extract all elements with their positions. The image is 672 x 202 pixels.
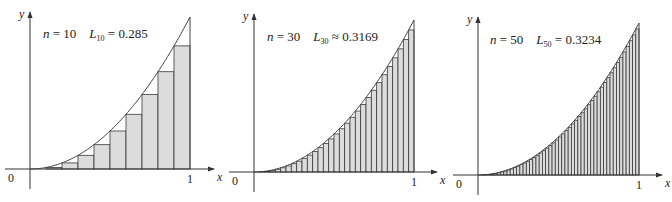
riemann-rectangle bbox=[507, 170, 510, 175]
riemann-rectangle bbox=[604, 83, 607, 175]
sum-annotation: n = 10 L10 = 0.285 bbox=[43, 26, 148, 43]
riemann-rectangle bbox=[307, 155, 312, 172]
riemann-rectangle bbox=[552, 143, 555, 175]
riemann-rectangle bbox=[382, 75, 387, 172]
riemann-rectangle bbox=[539, 153, 542, 175]
riemann-rectangle bbox=[584, 109, 587, 175]
riemann-rectangle bbox=[409, 30, 414, 172]
riemann-rectangle bbox=[387, 66, 392, 172]
riemann-rectangle bbox=[536, 155, 539, 175]
riemann-rectangle bbox=[546, 148, 549, 175]
riemann-rectangle bbox=[562, 134, 565, 175]
riemann-rectangle bbox=[610, 73, 613, 175]
riemann-rectangle bbox=[281, 168, 286, 172]
y-axis-label: y bbox=[18, 7, 25, 21]
x-tick-1-label: 1 bbox=[187, 172, 193, 186]
riemann-rectangle bbox=[600, 87, 603, 175]
riemann-rectangle bbox=[568, 127, 571, 175]
riemann-rectangle bbox=[345, 123, 350, 172]
riemann-rectangle bbox=[607, 78, 610, 175]
riemann-rectangle bbox=[530, 159, 533, 175]
origin-label: 0 bbox=[456, 177, 462, 191]
riemann-rectangle bbox=[398, 49, 403, 172]
riemann-rectangle bbox=[555, 140, 558, 175]
riemann-rectangle bbox=[575, 120, 578, 175]
riemann-rectangle bbox=[549, 146, 552, 175]
riemann-rectangle bbox=[355, 111, 360, 172]
origin-label: 0 bbox=[232, 174, 238, 188]
panel-n50: xy01n = 50 L50 = 0.3234 bbox=[453, 12, 671, 195]
riemann-rectangle bbox=[297, 161, 302, 172]
riemann-rectangle bbox=[371, 90, 376, 172]
panel-n30: xy01n = 30 L30 ≈ 0.3169 bbox=[229, 9, 446, 192]
riemann-rectangle bbox=[366, 98, 371, 172]
riemann-rectangle bbox=[110, 131, 126, 169]
x-axis-label: x bbox=[664, 176, 671, 190]
y-axis-label: y bbox=[466, 12, 473, 26]
riemann-rectangle bbox=[94, 145, 110, 169]
x-tick-1-label: 1 bbox=[636, 178, 642, 192]
riemann-rectangle bbox=[403, 40, 408, 172]
riemann-rectangle bbox=[339, 129, 344, 172]
sum-annotation: n = 30 L30 ≈ 0.3169 bbox=[267, 29, 378, 46]
riemann-rectangle bbox=[517, 166, 520, 175]
riemann-rectangle bbox=[504, 171, 507, 175]
riemann-rectangle bbox=[361, 104, 366, 172]
y-axis-label: y bbox=[242, 9, 249, 23]
riemann-rectangle bbox=[510, 169, 513, 175]
riemann-rectangle bbox=[62, 163, 78, 169]
sum-annotation: n = 50 L50 = 0.3234 bbox=[490, 32, 602, 49]
riemann-rectangle bbox=[520, 165, 523, 175]
riemann-rectangle bbox=[559, 137, 562, 175]
riemann-rectangle bbox=[126, 114, 142, 169]
riemann-rectangle bbox=[142, 95, 158, 169]
riemann-rectangle bbox=[571, 124, 574, 175]
rectangles bbox=[259, 30, 414, 172]
riemann-rectangle bbox=[616, 63, 619, 175]
riemann-rectangle bbox=[286, 166, 291, 172]
riemann-rectangle bbox=[78, 155, 94, 169]
riemann-rectangle bbox=[620, 57, 623, 175]
rectangles bbox=[481, 29, 639, 175]
riemann-rectangle bbox=[578, 117, 581, 175]
panel-n10: xy01n = 10 L10 = 0.285 bbox=[5, 7, 223, 189]
riemann-rectangle bbox=[158, 72, 174, 169]
riemann-rectangle bbox=[291, 164, 296, 172]
x-axis-label: x bbox=[439, 173, 446, 187]
riemann-rectangle bbox=[318, 148, 323, 172]
riemann-rectangle bbox=[594, 96, 597, 175]
riemann-rectangle bbox=[523, 163, 526, 175]
riemann-rectangle bbox=[591, 101, 594, 175]
riemann-rectangle bbox=[626, 46, 629, 175]
riemann-rectangle bbox=[174, 46, 190, 169]
riemann-rectangle bbox=[587, 105, 590, 175]
riemann-rectangle bbox=[526, 161, 529, 175]
riemann-rectangle bbox=[533, 157, 536, 175]
riemann-rectangle bbox=[334, 134, 339, 172]
riemann-rectangle bbox=[629, 41, 632, 175]
riemann-rectangle bbox=[329, 139, 334, 172]
riemann-rectangle bbox=[313, 152, 318, 172]
riemann-rectangle bbox=[633, 35, 636, 175]
riemann-sum-figure: xy01n = 10 L10 = 0.285xy01n = 30 L30 ≈ 0… bbox=[0, 0, 672, 202]
riemann-rectangle bbox=[623, 52, 626, 175]
riemann-rectangle bbox=[323, 143, 328, 172]
origin-label: 0 bbox=[8, 171, 14, 185]
riemann-rectangle bbox=[542, 151, 545, 175]
riemann-rectangle bbox=[350, 117, 355, 172]
riemann-rectangle bbox=[377, 83, 382, 172]
riemann-rectangle bbox=[302, 158, 307, 172]
riemann-rectangle bbox=[581, 113, 584, 175]
riemann-rectangle bbox=[513, 168, 516, 175]
x-axis-label: x bbox=[216, 170, 223, 184]
riemann-rectangle bbox=[613, 68, 616, 175]
riemann-rectangle bbox=[393, 58, 398, 172]
riemann-rectangle bbox=[597, 92, 600, 175]
riemann-rectangle bbox=[565, 131, 568, 175]
rectangles bbox=[46, 46, 190, 169]
x-tick-1-label: 1 bbox=[411, 175, 417, 189]
